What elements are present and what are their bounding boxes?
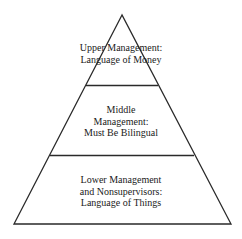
tier-middle-line-1: Middle <box>0 104 242 116</box>
tier-lower-line-1: Lower Management <box>0 174 242 186</box>
pyramid-diagram: Upper Management: Language of Money Midd… <box>0 0 242 239</box>
tier-middle-line-2: Management: <box>0 116 242 128</box>
tier-middle-label: Middle Management: Must Be Bilingual <box>0 104 242 139</box>
tier-upper-label: Upper Management: Language of Money <box>0 42 242 65</box>
tier-middle-line-3: Must Be Bilingual <box>0 127 242 139</box>
tier-lower-label: Lower Management and Nonsupervisors: Lan… <box>0 174 242 209</box>
tier-upper-line-2: Language of Money <box>0 54 242 66</box>
tier-lower-line-2: and Nonsupervisors: <box>0 186 242 198</box>
tier-upper-line-1: Upper Management: <box>0 42 242 54</box>
tier-lower-line-3: Language of Things <box>0 197 242 209</box>
